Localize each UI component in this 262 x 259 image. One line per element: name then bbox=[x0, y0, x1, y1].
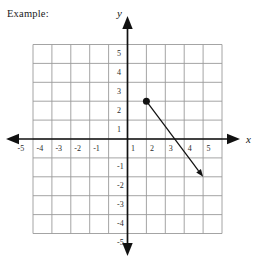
y-tick-label: -4 bbox=[117, 219, 124, 228]
x-tick-label: 1 bbox=[131, 144, 135, 153]
graph-canvas: -5-4-3-2-112345 54321-1-2-3-4-5 y x bbox=[0, 0, 262, 259]
x-tick-label: 4 bbox=[188, 144, 192, 153]
coordinate-plane-figure: Example: -5-4-3-2-112345 54321-1-2-3-4-5… bbox=[0, 0, 262, 259]
x-tick-label: -5 bbox=[18, 144, 25, 153]
x-tick-label: -1 bbox=[93, 144, 100, 153]
x-tick-label: 3 bbox=[169, 144, 173, 153]
y-tick-label: -5 bbox=[117, 238, 124, 247]
y-tick-label: -3 bbox=[117, 200, 124, 209]
y-tick-label: 4 bbox=[117, 68, 121, 77]
ray-segment bbox=[143, 98, 203, 177]
axis-lines bbox=[12, 22, 234, 250]
y-tick-label: -1 bbox=[117, 162, 124, 171]
y-tick-label: 1 bbox=[117, 125, 121, 134]
ray-start-point bbox=[143, 98, 150, 105]
y-tick-label: -2 bbox=[117, 181, 124, 190]
x-tick-label: -4 bbox=[37, 144, 44, 153]
x-tick-label: -3 bbox=[55, 144, 62, 153]
y-tick-label: 2 bbox=[117, 106, 121, 115]
y-tick-label: 5 bbox=[117, 49, 121, 58]
x-tick-label: 5 bbox=[207, 144, 211, 153]
x-tick-label: 2 bbox=[150, 144, 154, 153]
y-tick-label: 3 bbox=[117, 87, 121, 96]
y-axis-tick-labels: 54321-1-2-3-4-5 bbox=[117, 49, 124, 247]
x-axis-label: x bbox=[245, 133, 251, 145]
ray-line bbox=[146, 101, 198, 171]
y-axis-label: y bbox=[116, 7, 122, 19]
x-tick-label: -2 bbox=[74, 144, 81, 153]
ray-arrowhead bbox=[196, 169, 203, 177]
